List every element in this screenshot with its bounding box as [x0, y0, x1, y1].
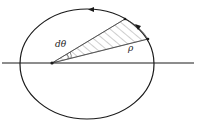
kepler-area-diagram: dθ ρ: [0, 0, 198, 130]
angle-label: dθ: [55, 39, 67, 49]
focus-point: [50, 61, 53, 64]
radius-label: ρ: [127, 43, 134, 53]
area-sector: [52, 19, 148, 63]
orbit-point-upper: [124, 18, 127, 21]
orbit-point-lower: [147, 38, 150, 41]
direction-arrow-top-icon: [88, 7, 94, 12]
